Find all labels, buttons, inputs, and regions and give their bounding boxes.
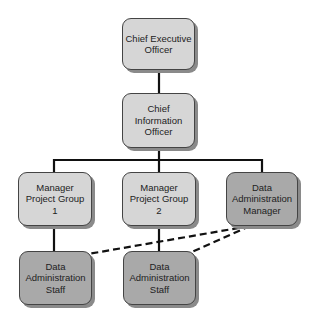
node-manager-project-group-1: Manager Project Group 1 <box>18 172 92 226</box>
node-label: Manager Project Group 1 <box>26 182 85 217</box>
node-data-administration-manager: Data Administration Manager <box>226 172 298 226</box>
node-chief-executive-officer: Chief Executive Officer <box>122 18 195 70</box>
edge-dam-das1-dashed <box>88 226 250 254</box>
node-label: Chief Executive Officer <box>125 33 191 56</box>
node-label: Data Administration Staff <box>129 261 189 296</box>
node-data-administration-staff-2: Data Administration Staff <box>123 251 196 305</box>
node-label: Chief Information Officer <box>135 103 183 138</box>
edge-dam-das2-dashed <box>192 226 250 252</box>
node-label: Data Administration Manager <box>232 182 292 217</box>
node-label: Manager Project Group 2 <box>130 182 189 217</box>
node-manager-project-group-2: Manager Project Group 2 <box>122 172 196 226</box>
node-label: Data Administration Staff <box>25 261 85 296</box>
node-data-administration-staff-1: Data Administration Staff <box>19 251 92 305</box>
node-chief-information-officer: Chief Information Officer <box>122 93 195 148</box>
